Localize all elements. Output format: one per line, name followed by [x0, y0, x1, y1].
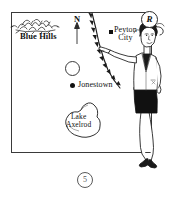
place-label-lake-axelrod: Lake Axelrod	[66, 113, 91, 128]
figure-number-badge: 5	[77, 172, 93, 188]
map-artwork	[0, 0, 178, 197]
figure-canvas: N Blue Hills Peyton City Jonestown Lake …	[0, 0, 178, 197]
open-circle-symbol	[65, 61, 80, 76]
peyton-city-line-2: City	[114, 34, 137, 42]
woman-pointing-illustration	[99, 22, 164, 168]
place-label-blue-hills: Blue Hills	[20, 32, 57, 41]
lake-line-2: Axelrod	[66, 120, 91, 129]
north-arrow-icon	[75, 23, 80, 45]
place-label-jonestown: Jonestown	[78, 81, 113, 89]
peyton-city-square-marker	[109, 30, 113, 34]
registered-mark-badge: R	[141, 11, 158, 28]
jonestown-dot-marker	[70, 83, 75, 88]
north-label: N	[74, 15, 80, 24]
place-label-peyton-city: Peyton City	[114, 26, 137, 43]
